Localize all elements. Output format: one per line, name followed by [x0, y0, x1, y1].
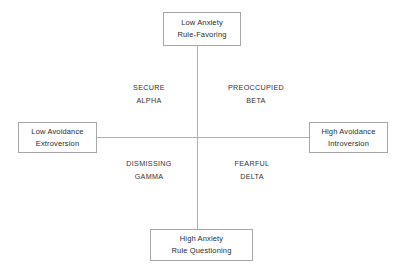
- axis-anchor-bottom-line-1: High Anxiety: [180, 233, 224, 245]
- axis-anchor-right-line-1: High Avoidance: [321, 126, 375, 138]
- axis-anchor-left-low-avoidance: Low Avoidance Extroversion: [18, 122, 97, 153]
- quadrant-label-secure-alpha: SECURE ALPHA: [112, 82, 186, 107]
- quadrant-upper-right-name: PREOCCUPIED: [212, 82, 300, 95]
- horizontal-axis-line: [97, 137, 309, 138]
- quadrant-diagram-canvas: Low Anxiety Rule-Favoring High Anxiety R…: [0, 0, 406, 273]
- quadrant-lower-right-name: FEARFUL: [212, 158, 292, 171]
- quadrant-label-preoccupied-beta: PREOCCUPIED BETA: [212, 82, 300, 107]
- axis-anchor-bottom-high-anxiety: High Anxiety Rule Questioning: [150, 229, 253, 261]
- quadrant-upper-right-greek: BETA: [212, 95, 300, 108]
- quadrant-label-fearful-delta: FEARFUL DELTA: [212, 158, 292, 183]
- quadrant-lower-right-greek: DELTA: [212, 171, 292, 184]
- axis-anchor-right-high-avoidance: High Avoidance Introversion: [309, 122, 388, 153]
- axis-anchor-top-low-anxiety: Low Anxiety Rule-Favoring: [163, 12, 241, 46]
- axis-anchor-left-line-1: Low Avoidance: [31, 126, 83, 138]
- quadrant-lower-left-greek: GAMMA: [110, 171, 188, 184]
- quadrant-upper-left-greek: ALPHA: [112, 95, 186, 108]
- quadrant-label-dismissing-gamma: DISMISSING GAMMA: [110, 158, 188, 183]
- axis-anchor-bottom-line-2: Rule Questioning: [172, 245, 232, 257]
- axis-anchor-right-line-2: Introversion: [328, 138, 369, 150]
- quadrant-lower-left-name: DISMISSING: [110, 158, 188, 171]
- quadrant-upper-left-name: SECURE: [112, 82, 186, 95]
- axis-anchor-top-line-1: Low Anxiety: [181, 17, 223, 29]
- axis-anchor-top-line-2: Rule-Favoring: [177, 29, 226, 41]
- axis-anchor-left-line-2: Extroversion: [36, 138, 79, 150]
